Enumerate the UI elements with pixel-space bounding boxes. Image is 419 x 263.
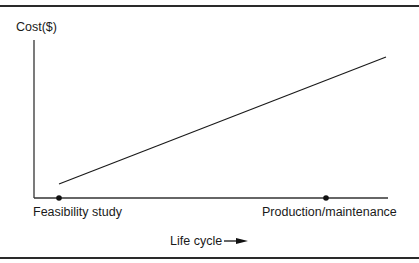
cost-trend-line [59,57,386,184]
production-label: Production/maintenance [262,206,397,219]
x-axis-label: Life cycle [170,235,222,248]
production-point [323,195,329,201]
feasibility-label: Feasibility study [33,206,122,219]
cost-diagram [0,0,419,263]
y-axis-label: Cost($) [16,21,57,34]
feasibility-point [56,195,62,201]
right-arrow-icon [224,238,248,244]
